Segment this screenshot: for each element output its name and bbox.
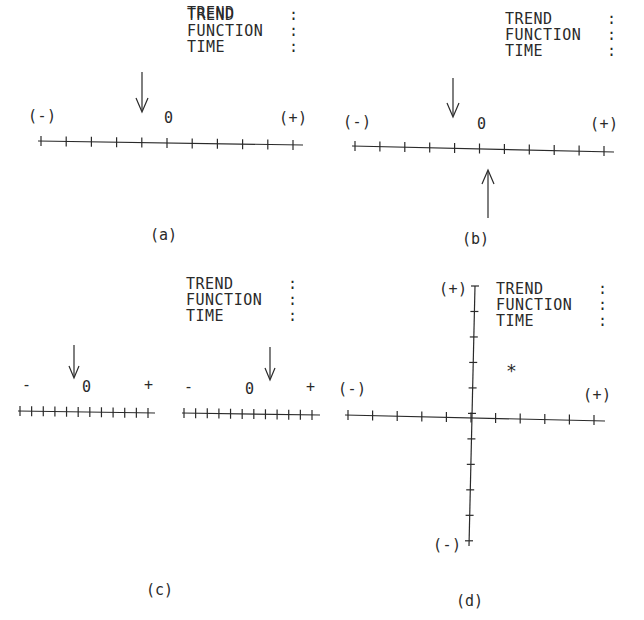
panel-d-y-pos: (+)	[439, 282, 468, 297]
panel-d-function-colon: :	[598, 298, 608, 313]
panel-a-function-colon: :	[289, 24, 299, 39]
panel-a-caption: (a)	[150, 226, 177, 244]
panel-a-neg: (-)	[28, 109, 57, 124]
panel-a-zero: 0	[164, 111, 174, 126]
panel-c-caption: (c)	[146, 581, 173, 599]
panel-a-trend-colon: :	[289, 8, 299, 23]
panel-c-trend-colon: :	[288, 277, 298, 292]
panel-a-time-label: TIME	[187, 40, 225, 55]
panel-b-zero: 0	[477, 117, 487, 132]
panel-b-time-colon: :	[607, 44, 617, 59]
panel-a-pos: (+)	[279, 111, 308, 126]
panel-d-marker: *	[506, 360, 517, 381]
panel-c-right-pos: +	[306, 380, 316, 395]
panel-d-trend-label: TREND	[496, 282, 544, 297]
panel-c-function-colon: :	[288, 293, 298, 308]
panel-b-pos: (+)	[590, 117, 619, 132]
panel-c-left-neg: -	[22, 378, 32, 393]
panel-c-right-zero: 0	[245, 382, 255, 397]
panel-c-time-colon: :	[288, 309, 298, 324]
panel-c-axes	[18, 345, 320, 415]
panel-a-time-colon: :	[289, 40, 299, 55]
panel-a-function-label: FUNCTION	[187, 24, 263, 39]
panel-c-left-zero: 0	[82, 380, 92, 395]
panel-d-function-label: FUNCTION	[496, 298, 572, 313]
panel-b-neg: (-)	[343, 115, 372, 130]
panel-d-x-pos: (+)	[583, 388, 612, 403]
panel-a-trend-label: TREND	[187, 8, 235, 23]
panel-b-time-label: TIME	[505, 44, 543, 59]
panel-b-trend-colon: :	[607, 12, 617, 27]
panel-b-function-colon: :	[607, 28, 617, 43]
panel-c-function-label: FUNCTION	[186, 293, 262, 308]
panel-d-x-neg: (-)	[338, 382, 367, 397]
panel-b-trend-label: TREND	[505, 12, 553, 27]
panel-d-axes	[345, 286, 605, 546]
panel-d-trend-colon: :	[598, 282, 608, 297]
panel-c-right-neg: -	[184, 380, 194, 395]
panel-b-axis	[352, 78, 614, 218]
panel-d-caption: (d)	[456, 592, 483, 610]
panel-b-caption: (b)	[462, 230, 489, 248]
panel-c-trend-label: TREND	[186, 277, 234, 292]
panel-d-y-neg: (-)	[433, 538, 462, 553]
panel-c-left-pos: +	[144, 378, 154, 393]
panel-b-function-label: FUNCTION	[505, 28, 581, 43]
panel-c-time-label: TIME	[186, 309, 224, 324]
panel-d-time-colon: :	[598, 314, 608, 329]
panel-d-time-label: TIME	[496, 314, 534, 329]
